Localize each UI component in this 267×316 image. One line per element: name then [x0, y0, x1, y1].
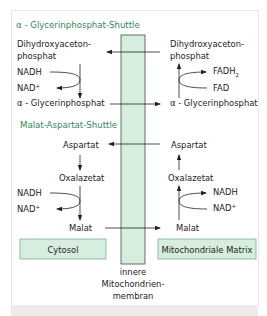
right-dhap-label-2: phosphat	[170, 51, 210, 61]
left-g3p-label: α - Glycerinphosphat	[17, 98, 105, 108]
left-malate-nadh-label: NADH	[17, 188, 42, 198]
membrane-label-line2: Mitochondrien-	[102, 279, 165, 289]
right-malate-nadh-label: NADH	[213, 187, 238, 197]
left-malate-nad-label: NAD+	[17, 204, 40, 214]
right-fadh2-label: FADH2	[213, 66, 239, 78]
right-malate-label: Malat	[176, 223, 200, 233]
right-g3p-label: α - Glycerinphosphat	[170, 98, 258, 108]
left-oxaloacetate-label: Oxalazetat	[59, 173, 105, 183]
left-malate-nadh-curve	[50, 193, 80, 209]
right-dhap-label-1: Dihydroxyaceton-	[170, 39, 244, 49]
matrix-label: Mitochondriale Matrix	[161, 245, 252, 255]
right-malate-nad-curve	[179, 193, 207, 209]
left-malate-label: Malat	[69, 223, 93, 233]
left-nadh-label: NADH	[17, 67, 42, 77]
left-dhap-label-1: Dihydroxyaceton-	[17, 39, 91, 49]
right-malate-nad-label: NAD+	[213, 203, 236, 213]
right-fad-label: FAD	[213, 83, 229, 93]
left-nadh-to-nad-curve	[50, 72, 80, 88]
cytosol-label: Cytosol	[47, 245, 78, 255]
left-aspartate-label: Aspartat	[63, 140, 99, 150]
malate-aspartate-shuttle-title: Malat-Aspartat-Shuttle	[20, 120, 117, 130]
right-aspartate-label: Aspartat	[171, 140, 207, 150]
shuttle-diagram: α - Glycerinphosphat-Shuttle Malat-Aspar…	[0, 0, 267, 316]
right-fad-to-fadh2-curve	[179, 72, 207, 88]
inner-membrane	[121, 35, 145, 264]
left-dhap-label-2: phosphat	[17, 51, 57, 61]
right-oxaloacetate-label: Oxalazetat	[168, 173, 214, 183]
membrane-label-line3: membran	[113, 291, 154, 301]
left-nad-label: NAD+	[17, 83, 40, 93]
glycerophosphate-shuttle-title: α - Glycerinphosphat-Shuttle	[16, 20, 140, 30]
membrane-label-line1: innere	[120, 267, 147, 277]
